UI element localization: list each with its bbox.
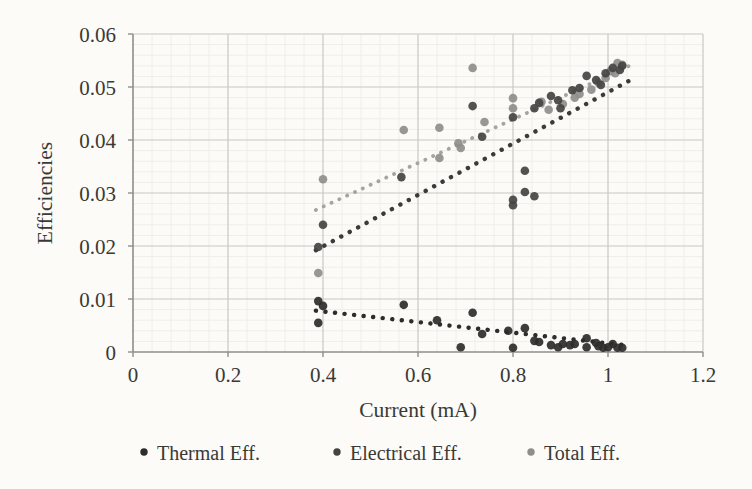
scatter-point-total-eff <box>544 105 553 114</box>
scatter-point-electrical-eff <box>597 81 606 90</box>
scatter-point-electrical-eff <box>397 173 406 182</box>
scatter-point-electrical-eff <box>314 243 323 252</box>
scatter-point-thermal-eff <box>399 301 408 310</box>
x-tick-label: 0.6 <box>405 363 431 387</box>
scatter-point-total-eff <box>456 144 465 153</box>
scatter-point-total-eff <box>319 175 328 184</box>
x-axis-title: Current (mA) <box>359 398 477 422</box>
scatter-point-thermal-eff <box>582 334 591 343</box>
scatter-point-thermal-eff <box>570 340 579 349</box>
scatter-point-total-eff <box>435 124 444 133</box>
scatter-point-electrical-eff <box>556 104 565 113</box>
scatter-point-thermal-eff <box>456 343 465 352</box>
y-tick-label: 0 <box>106 341 117 365</box>
legend-label-electrical-eff: Electrical Eff. <box>350 442 462 464</box>
scatter-point-thermal-eff <box>582 343 591 352</box>
scatter-point-thermal-eff <box>618 343 627 352</box>
x-tick-label: 1.2 <box>690 363 716 387</box>
x-tick-label: 1 <box>603 363 614 387</box>
scatter-point-electrical-eff <box>554 96 563 105</box>
scatter-point-electrical-eff <box>319 221 328 230</box>
scatter-point-electrical-eff <box>530 192 539 201</box>
scatter-point-thermal-eff <box>535 338 544 347</box>
scatter-point-electrical-eff <box>530 104 539 113</box>
scatter-point-total-eff <box>509 104 518 113</box>
scatter-point-thermal-eff <box>504 327 513 336</box>
scatter-point-electrical-eff <box>468 102 477 111</box>
y-tick-label: 0.04 <box>79 129 116 153</box>
scatter-point-total-eff <box>509 94 518 103</box>
scatter-point-total-eff <box>314 269 323 278</box>
x-tick-label: 0.4 <box>310 363 337 387</box>
y-tick-label: 0.01 <box>79 288 116 312</box>
scatter-point-thermal-eff <box>314 319 323 328</box>
legend-label-total-eff: Total Eff. <box>544 442 620 464</box>
y-tick-label: 0.02 <box>79 235 116 259</box>
x-tick-label: 0 <box>128 363 139 387</box>
chart-figure: 00.20.40.60.811.200.010.020.030.040.050.… <box>0 0 752 489</box>
legend-marker-electrical-eff <box>333 448 340 455</box>
scatter-point-thermal-eff <box>478 330 487 339</box>
scatter-point-electrical-eff <box>509 113 518 122</box>
scatter-point-electrical-eff <box>618 62 627 71</box>
legend-label-thermal-eff: Thermal Eff. <box>157 442 260 464</box>
scatter-point-total-eff <box>399 126 408 135</box>
scatter-point-electrical-eff <box>521 166 530 175</box>
legend-marker-total-eff <box>527 448 534 455</box>
y-tick-label: 0.03 <box>79 182 116 206</box>
legend-marker-thermal-eff <box>140 448 147 455</box>
scatter-point-electrical-eff <box>575 84 584 93</box>
scatter-point-electrical-eff <box>509 201 518 210</box>
scatter-point-electrical-eff <box>478 133 487 142</box>
scatter-point-total-eff <box>480 118 489 127</box>
y-axis-title: Efficiencies <box>33 142 57 244</box>
legend: Thermal Eff.Electrical Eff.Total Eff. <box>140 442 620 464</box>
scatter-point-thermal-eff <box>509 343 518 352</box>
scatter-point-electrical-eff <box>601 69 610 78</box>
scatter-point-electrical-eff <box>521 188 530 197</box>
scatter-point-thermal-eff <box>433 316 442 325</box>
tick-labels: 00.20.40.60.811.200.010.020.030.040.050.… <box>79 23 716 388</box>
scatter-point-thermal-eff <box>319 302 328 311</box>
scatter-point-total-eff <box>435 154 444 163</box>
efficiency-scatter-chart: 00.20.40.60.811.200.010.020.030.040.050.… <box>0 0 752 489</box>
scatter-point-total-eff <box>587 85 596 94</box>
x-tick-label: 0.8 <box>500 363 526 387</box>
y-tick-label: 0.05 <box>79 76 116 100</box>
major-gridlines <box>133 34 703 352</box>
x-tick-label: 0.2 <box>215 363 241 387</box>
scatter-point-total-eff <box>468 64 477 73</box>
y-tick-label: 0.06 <box>79 23 116 47</box>
scatter-point-electrical-eff <box>582 72 591 81</box>
scatter-point-thermal-eff <box>468 308 477 317</box>
scatter-point-thermal-eff <box>521 324 530 333</box>
